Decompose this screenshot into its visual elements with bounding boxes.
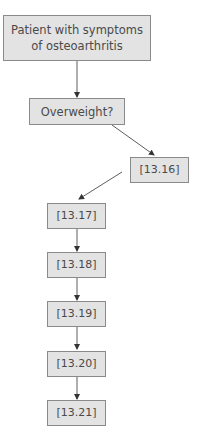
node-label-line2: of osteoarthritis — [31, 38, 123, 54]
node-label: [13.19] — [56, 307, 96, 321]
node-label: [13.18] — [56, 258, 96, 272]
edge-n2-n3 — [112, 125, 154, 155]
node-label: [13.17] — [56, 209, 96, 223]
node-13-20: [13.20] — [47, 351, 106, 377]
node-label: Overweight? — [41, 105, 114, 119]
node-13-19: [13.19] — [47, 301, 106, 327]
node-label: [13.20] — [56, 357, 96, 371]
edge-n3-n4 — [79, 172, 122, 199]
node-label-line1: Patient with symptoms — [11, 22, 143, 38]
node-patient-symptoms: Patient with symptoms of osteoarthritis — [3, 15, 151, 61]
node-13-17: [13.17] — [47, 203, 106, 229]
node-overweight: Overweight? — [29, 98, 125, 125]
node-13-16: [13.16] — [130, 157, 189, 183]
node-label: [13.16] — [139, 163, 179, 177]
node-13-21: [13.21] — [47, 400, 106, 426]
node-label: [13.21] — [56, 406, 96, 420]
node-13-18: [13.18] — [47, 252, 106, 278]
